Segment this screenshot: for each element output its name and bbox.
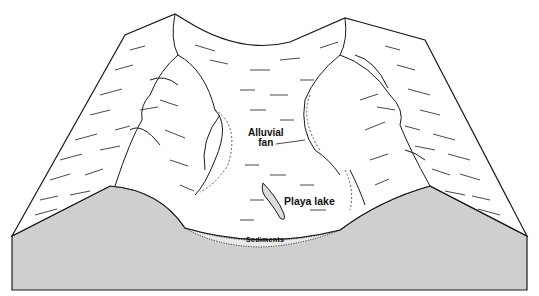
sediments-label: Sediments — [246, 236, 284, 243]
alluvial-fan-label: Alluvial fan — [248, 128, 284, 148]
basin-block-diagram — [0, 0, 539, 296]
alluvial-fan-label-line2: fan — [248, 138, 284, 148]
playa-lake-label: Playa lake — [284, 196, 335, 207]
